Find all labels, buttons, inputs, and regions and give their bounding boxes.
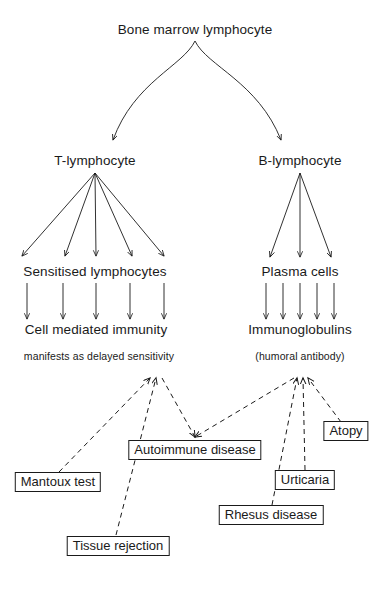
edge-t-fan-3 [95,173,96,256]
lymphocyte-flowchart-diagram: Bone marrow lymphocyte T-lymphocyte B-ly… [0,0,388,592]
outcome-box-mantoux-test: Mantoux test [15,472,101,492]
edge-b-fan-1 [270,173,300,257]
edge-t-fan-5 [95,173,164,256]
outcome-box-tissue-rejection: Tissue rejection [67,536,170,556]
connector-layer [0,0,388,592]
node-label-plasma-cells: Plasma cells [262,265,339,279]
outcome-box-rhesus-disease: Rhesus disease [219,505,324,525]
edge-root-to-t [113,41,195,140]
edge-urticaria-to-right-hub [303,378,305,470]
node-label-sensitised-lymphocytes: Sensitised lymphocytes [23,265,166,279]
edge-atopy-to-right-hub [308,378,341,422]
edge-t-fan-4 [95,173,132,256]
edge-right-hub-to-autoimmune [195,378,294,437]
outcome-box-atopy: Atopy [323,421,368,441]
edge-t-fan-2 [65,173,95,256]
edge-b-fan-3 [300,173,331,257]
edge-root-to-b [195,41,281,140]
node-label-cell-mediated-immunity: Cell mediated immunity [25,323,168,337]
outcome-box-urticaria: Urticaria [275,470,335,490]
node-label-immunoglobulins: Immunoglobulins [248,323,352,337]
node-label-root: Bone marrow lymphocyte [118,23,273,37]
outcome-box-autoimmune-disease: Autoimmune disease [128,440,261,460]
note-humoral-antibody: (humoral antibody) [255,351,344,362]
edge-t-fan-1 [22,173,95,256]
note-delayed-sensitivity: manifests as delayed sensitivity [24,351,174,362]
node-label-b-lymphocyte: B-lymphocyte [259,154,342,168]
node-label-t-lymphocyte: T-lymphocyte [54,154,135,168]
edge-left-hub-to-autoimmune [162,378,195,437]
